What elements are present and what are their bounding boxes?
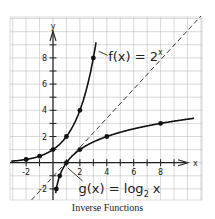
- y-tick-label: 4: [42, 106, 47, 115]
- x-tick-label: 6: [131, 168, 136, 177]
- data-point: [78, 108, 83, 113]
- f-label-exponent: x: [158, 48, 163, 57]
- f-label-leader: [99, 51, 108, 55]
- figure-caption: Inverse Functions: [0, 202, 215, 213]
- inverse-functions-chart: -22468-22468xy f(x) = 2xg(x) = log2 x: [0, 0, 215, 205]
- identity-line: [31, 16, 200, 200]
- g-label: g(x) = log2 x: [79, 181, 161, 199]
- tick-labels: -22468-22468xy: [22, 22, 198, 194]
- data-point: [37, 154, 42, 159]
- y-axis-label: y: [51, 22, 56, 31]
- data-point: [64, 160, 69, 165]
- x-tick-label: 8: [158, 168, 163, 177]
- data-point: [51, 147, 56, 152]
- y-tick-label: -2: [39, 185, 47, 194]
- g-label-suffix: x: [149, 181, 161, 196]
- data-point: [64, 134, 69, 139]
- data-point: [57, 173, 62, 178]
- x-axis-label: x: [193, 159, 198, 168]
- data-point: [91, 56, 96, 61]
- y-tick-label: 8: [42, 54, 47, 63]
- data-point: [54, 187, 59, 192]
- x-tick-label: 2: [77, 168, 82, 177]
- f-label: f(x) = 2x: [108, 48, 163, 64]
- x-tick-label: 4: [104, 168, 109, 177]
- data-point: [24, 157, 29, 162]
- data-point: [78, 147, 83, 152]
- x-tick-label: -2: [22, 168, 30, 177]
- y-tick-label: 2: [42, 133, 47, 142]
- data-point: [158, 121, 163, 126]
- data-point: [104, 134, 109, 139]
- y-tick-label: 6: [42, 80, 47, 89]
